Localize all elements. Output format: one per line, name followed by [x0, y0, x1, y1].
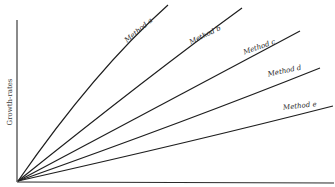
growth-rates-chart: Growth-rates Method aMethod bMethod cMet…	[0, 0, 335, 187]
series-label-c: Method c	[241, 38, 276, 57]
series-label-b: Method b	[187, 24, 222, 47]
series-label-d: Method d	[266, 63, 302, 78]
x-axis	[17, 182, 334, 183]
y-axis-label: Growth-rates	[6, 78, 14, 125]
series-line-d	[18, 68, 320, 181]
series-label-e: Method e	[282, 100, 317, 112]
series-line-c	[18, 31, 300, 181]
series-label-a: Method a	[122, 17, 154, 45]
